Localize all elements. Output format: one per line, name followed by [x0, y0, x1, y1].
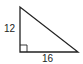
triangle-outline: [20, 7, 78, 52]
right-angle-marker: [20, 45, 27, 52]
horizontal-leg-label: 16: [42, 54, 53, 64]
vertical-leg-label: 12: [4, 24, 15, 34]
